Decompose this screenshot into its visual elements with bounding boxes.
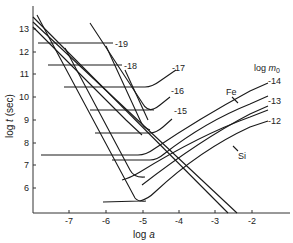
label-m12: -12 (268, 116, 281, 126)
diagonal-5 (90, 23, 154, 110)
label-m13: -13 (268, 96, 281, 106)
label-fe: Fe (226, 87, 237, 97)
x-tick-m2: -2 (248, 216, 256, 226)
label-m15: -15 (174, 106, 187, 116)
chart: 13 12 11 10 9 8 7 6 -7 -6 -5 -4 -3 -2 lo… (0, 0, 293, 243)
y-tick-9: 9 (24, 115, 29, 125)
y-tick-10: 10 (19, 92, 29, 102)
diagonal-1 (33, 17, 228, 213)
y-tick-6: 6 (24, 183, 29, 193)
y-tick-7: 7 (24, 160, 29, 170)
x-tick-m5: -5 (139, 216, 147, 226)
label-m19: -19 (115, 39, 128, 49)
y-tick-13: 13 (19, 24, 29, 34)
x-axis-label: log a (133, 229, 155, 240)
diagonal-2 (33, 22, 237, 213)
label-si: Si (238, 151, 246, 161)
y-tick-8: 8 (24, 138, 29, 148)
label-m16: -16 (171, 86, 184, 96)
legend-title: log m0 (254, 63, 280, 74)
x-tick-m4: -4 (175, 216, 183, 226)
plot-curves (33, 15, 268, 213)
y-axis-label: log t (sec) (4, 94, 15, 138)
diagonal-6 (106, 46, 150, 130)
x-tick-m3: -3 (211, 216, 219, 226)
y-tick-11: 11 (20, 69, 29, 79)
y-tick-12: 12 (19, 47, 29, 57)
label-m14: -14 (268, 76, 281, 86)
label-m18: -18 (124, 61, 137, 71)
curve-m12 (122, 110, 268, 180)
x-tick-m7: -7 (65, 216, 73, 226)
x-tick-m6: -6 (102, 216, 110, 226)
label-m17: -17 (172, 63, 185, 73)
